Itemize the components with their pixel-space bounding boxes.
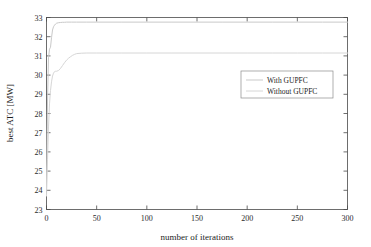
y-tick-label: 25: [35, 167, 43, 176]
x-tick-label: 150: [191, 214, 203, 223]
y-tick-label: 23: [35, 206, 43, 215]
y-tick-label: 29: [35, 90, 43, 99]
y-axis-title: best ATC [MW]: [5, 84, 15, 142]
y-tick-label: 32: [35, 33, 43, 42]
x-tick-label: 100: [141, 214, 153, 223]
x-tick-label: 50: [93, 214, 101, 223]
y-tick-label: 26: [35, 148, 43, 157]
y-tick-label: 30: [35, 71, 43, 80]
x-tick-label: 200: [241, 214, 253, 223]
plot-frame: [47, 18, 348, 210]
y-tick-label: 31: [35, 52, 43, 61]
x-tick-label: 250: [291, 214, 303, 223]
x-axis-tick-group: 050100150200250300: [45, 18, 354, 223]
legend: With GUPFCWithout GUPFC: [241, 71, 333, 98]
chart-figure: 2324252627282930313233 05010015020025030…: [0, 0, 371, 247]
legend-label-0: With GUPFC: [267, 76, 308, 85]
x-tick-label: 300: [342, 214, 354, 223]
x-tick-label: 0: [45, 214, 49, 223]
legend-label-1: Without GUPFC: [267, 87, 317, 96]
y-tick-label: 24: [35, 186, 43, 195]
x-axis-title: number of iterations: [161, 232, 234, 242]
y-tick-label: 33: [35, 14, 43, 23]
series-line-with-gupfc: [47, 22, 348, 189]
best-atc-convergence-chart: 2324252627282930313233 05010015020025030…: [0, 0, 371, 247]
y-axis-tick-group: 2324252627282930313233: [35, 14, 348, 215]
y-tick-label: 27: [35, 129, 43, 138]
series-group: [47, 22, 348, 196]
y-tick-label: 28: [35, 110, 43, 119]
